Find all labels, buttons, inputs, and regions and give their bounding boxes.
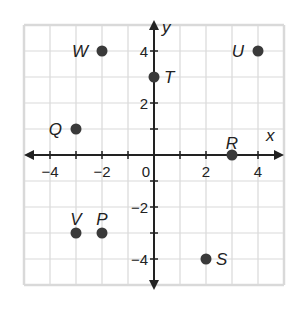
point-label-s: S <box>216 250 228 269</box>
point-v <box>71 228 82 239</box>
y-axis-label: y <box>161 18 172 37</box>
point-q <box>71 124 82 135</box>
y-tick-label: 4 <box>140 43 148 60</box>
point-label-v: V <box>70 210 83 229</box>
axes <box>24 20 284 290</box>
point-label-t: T <box>164 68 176 87</box>
x-axis-label: x <box>265 126 275 145</box>
point-label-q: Q <box>49 120 62 139</box>
x-tick-label: −4 <box>41 163 58 180</box>
x-tick-label: 2 <box>202 163 210 180</box>
point-w <box>97 46 108 57</box>
point-p <box>97 228 108 239</box>
point-u <box>253 46 264 57</box>
coordinate-plane: −4−202442−2−4 x y WUTQRVPS <box>0 0 299 312</box>
point-label-w: W <box>72 42 90 61</box>
point-label-p: P <box>96 210 108 229</box>
point-label-r: R <box>226 134 238 153</box>
y-tick-label: −2 <box>131 199 148 216</box>
x-axis-left-arrow-icon <box>24 150 34 160</box>
x-tick-label: 0 <box>142 163 150 180</box>
x-axis-right-arrow-icon <box>274 150 284 160</box>
point-label-u: U <box>232 42 245 61</box>
x-tick-label: −2 <box>93 163 110 180</box>
point-s <box>201 254 212 265</box>
y-tick-label: −4 <box>131 251 148 268</box>
point-t <box>149 72 160 83</box>
x-tick-label: 4 <box>254 163 262 180</box>
y-tick-label: 2 <box>140 95 148 112</box>
